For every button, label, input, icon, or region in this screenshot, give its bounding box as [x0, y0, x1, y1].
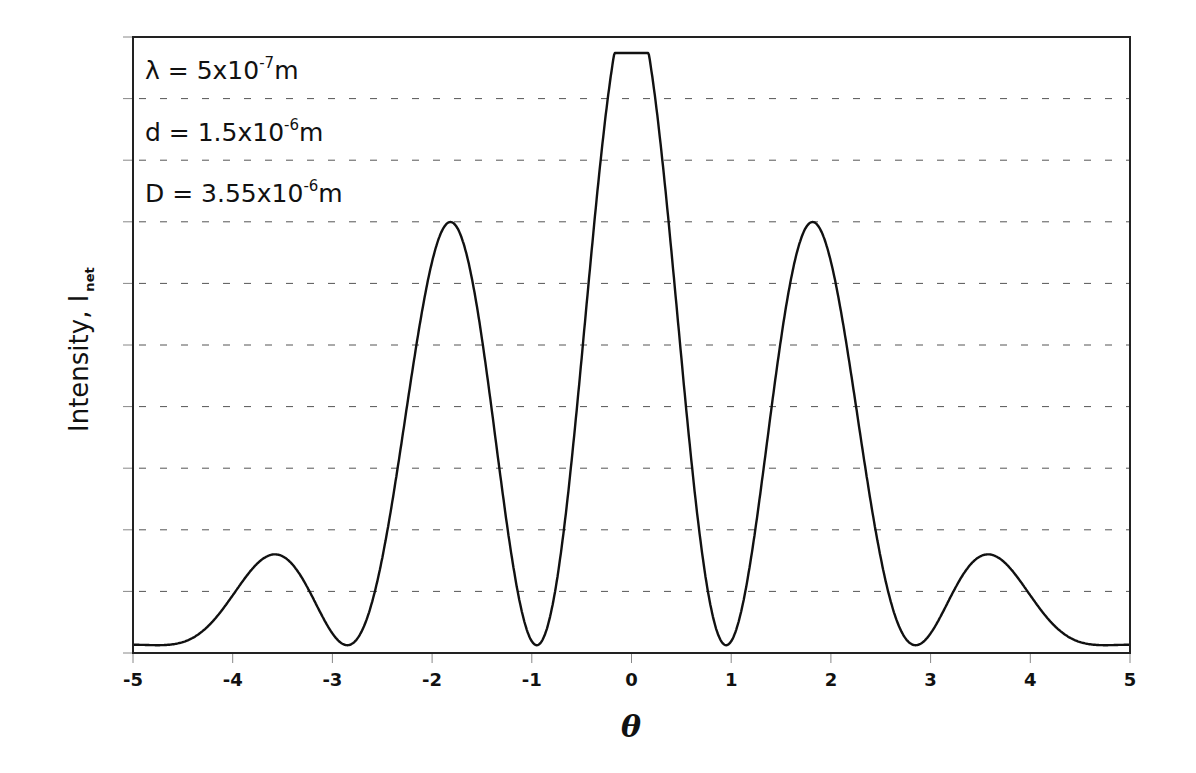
x-tick-label: -3: [322, 669, 342, 690]
x-tick-label: 4: [1024, 669, 1037, 690]
intensity-chart: -5-4-3-2-1012345 λ = 5x10-7m d = 1.5x10-…: [0, 0, 1196, 773]
annotation-wavelength: λ = 5x10-7m: [145, 54, 298, 85]
x-tick-label: -5: [123, 669, 143, 690]
y-gridlines: [139, 99, 1130, 592]
x-tick-label: -1: [522, 669, 542, 690]
x-axis-ticks: -5-4-3-2-1012345: [123, 653, 1136, 690]
x-tick-label: -2: [422, 669, 442, 690]
y-axis-label: Intensity, Inet: [64, 267, 97, 432]
x-axis-label: θ: [621, 709, 641, 744]
y-axis-ticks: [123, 37, 133, 653]
x-tick-label: 5: [1124, 669, 1137, 690]
x-tick-label: 3: [924, 669, 937, 690]
annotation-slit-width: D = 3.55x10-6m: [145, 177, 343, 208]
annotation-slit-separation: d = 1.5x10-6m: [145, 116, 323, 147]
parameter-annotations: λ = 5x10-7m d = 1.5x10-6m D = 3.55x10-6m: [145, 54, 343, 208]
x-tick-label: 1: [725, 669, 738, 690]
x-tick-label: 0: [625, 669, 638, 690]
x-tick-label: -4: [223, 669, 243, 690]
x-tick-label: 2: [825, 669, 838, 690]
